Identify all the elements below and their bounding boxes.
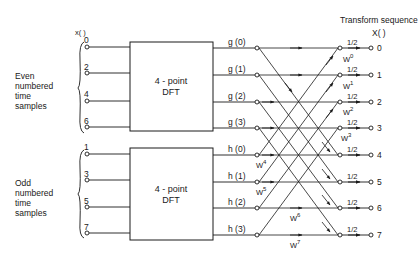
twiddle-w1: W1 — [343, 80, 354, 91]
output-X2: 2 — [377, 97, 382, 107]
scale-label-5: 1/2 — [347, 172, 357, 181]
g2-label: g (2) — [228, 91, 246, 101]
twiddle-w7: W7 — [290, 239, 301, 250]
diagram-title: Transform sequence — [340, 15, 418, 25]
odd-inputs — [85, 152, 130, 235]
input-x4: 4 — [84, 89, 89, 99]
input-x7: 7 — [84, 222, 89, 232]
output-X5: 5 — [377, 177, 382, 187]
h1-label: h (1) — [228, 171, 246, 181]
dft-even-label-1: 4 - point — [155, 76, 188, 86]
output-X4: 4 — [377, 150, 382, 160]
svg-text:time: time — [15, 91, 31, 101]
output-nodes — [369, 46, 373, 237]
svg-text:numbered: numbered — [15, 188, 54, 198]
scale-label-0: 1/2 — [347, 38, 357, 47]
svg-text:samples: samples — [15, 101, 47, 111]
scale-label-7: 1/2 — [347, 225, 357, 234]
twiddle-w4: W4 — [256, 159, 267, 170]
output-X3: 3 — [377, 123, 382, 133]
dft-odd-label-2: DFT — [162, 195, 180, 205]
twiddle-w5: W5 — [256, 186, 267, 197]
g0-label: g (0) — [228, 37, 246, 47]
input-x5: 5 — [84, 196, 89, 206]
input-x6: 6 — [84, 116, 89, 126]
output-X1: 1 — [377, 70, 382, 80]
svg-text:W0: W0 — [343, 53, 354, 64]
svg-text:W7: W7 — [290, 239, 301, 250]
g1-label: g (1) — [228, 64, 246, 74]
twiddle-w2: W2 — [343, 106, 354, 117]
scale-label-4: 1/2 — [347, 145, 357, 154]
butterfly-arrows — [262, 48, 302, 235]
input-x0: 0 — [84, 35, 89, 45]
svg-text:numbered: numbered — [15, 81, 54, 91]
scale-label-2: 1/2 — [347, 92, 357, 101]
scale-label-3: 1/2 — [347, 118, 357, 127]
input-x3: 3 — [84, 169, 89, 179]
dft-odd-label-1: 4 - point — [155, 184, 188, 194]
scale-label-1: 1/2 — [347, 65, 357, 74]
twiddle-w0: W0 — [343, 53, 354, 64]
butterfly-cross-paths — [259, 48, 338, 235]
twiddle-w3: W3 — [341, 132, 352, 143]
twiddle-w6: W6 — [290, 212, 301, 223]
svg-text:W6: W6 — [290, 212, 301, 223]
input-x2: 2 — [84, 62, 89, 72]
h3-label: h (3) — [228, 224, 246, 234]
fft-flow-diagram: Transform sequence X( ) x( ) Even number… — [0, 0, 420, 264]
output-X0: 0 — [377, 43, 382, 53]
svg-text:Even: Even — [15, 71, 35, 81]
h0-label: h (0) — [228, 144, 246, 154]
g-h-nodes — [255, 46, 259, 237]
svg-text:W4: W4 — [256, 159, 267, 170]
svg-text:Odd: Odd — [15, 178, 31, 188]
svg-text:W1: W1 — [343, 80, 354, 91]
dft-even-label-2: DFT — [162, 87, 180, 97]
svg-text:W2: W2 — [343, 106, 354, 117]
butterfly-straight-paths — [259, 48, 338, 235]
even-inputs — [85, 45, 130, 129]
svg-text:W5: W5 — [256, 186, 267, 197]
output-label: X( ) — [372, 28, 386, 38]
output-X6: 6 — [377, 203, 382, 213]
output-X7: 7 — [377, 230, 382, 240]
svg-text:time: time — [15, 198, 31, 208]
svg-text:W3: W3 — [341, 132, 352, 143]
input-x1: 1 — [84, 142, 89, 152]
odd-samples-label: Odd numbered time samples — [15, 178, 54, 218]
g3-label: g (3) — [228, 117, 246, 127]
svg-text:samples: samples — [15, 208, 47, 218]
h2-label: h (2) — [228, 197, 246, 207]
dft-box-odd — [130, 148, 213, 240]
even-samples-label: Even numbered time samples — [15, 71, 54, 111]
scale-label-6: 1/2 — [347, 198, 357, 207]
